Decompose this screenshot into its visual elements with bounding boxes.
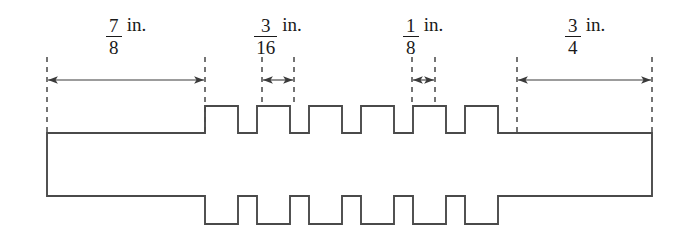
extension-lines xyxy=(47,57,652,133)
fraction-denominator: 16 xyxy=(254,37,277,57)
unit-label: in. xyxy=(282,15,302,34)
fraction-denominator: 4 xyxy=(566,37,580,57)
unit-label: in. xyxy=(127,15,147,34)
fraction-denominator: 8 xyxy=(404,37,418,57)
fraction-numerator: 3 xyxy=(566,16,580,36)
unit-label: in. xyxy=(586,15,606,34)
fraction-numerator: 7 xyxy=(107,16,121,36)
shaft-outline xyxy=(47,106,652,224)
fraction-one-eighth: 1 8 xyxy=(403,16,419,57)
fraction-three-quarters: 3 4 xyxy=(565,16,581,57)
dimension-label-tooth-width: 3 16 in. xyxy=(218,14,338,55)
dimension-label-left-shank-length: 7 8 in. xyxy=(66,14,186,55)
fraction-three-sixteenths: 3 16 xyxy=(254,16,277,57)
unit-label: in. xyxy=(424,15,444,34)
fraction-numerator: 3 xyxy=(259,16,273,36)
dimension-label-groove-width: 1 8 in. xyxy=(363,14,483,55)
fraction-denominator: 8 xyxy=(107,37,121,57)
fraction-seven-eighths: 7 8 xyxy=(106,16,122,57)
dimension-label-right-shank-length: 3 4 in. xyxy=(525,14,645,55)
fraction-numerator: 1 xyxy=(404,16,418,36)
shaft-dimension-figure: 7 8 in. 3 16 in. 1 8 in. 3 4 in. xyxy=(0,0,686,249)
